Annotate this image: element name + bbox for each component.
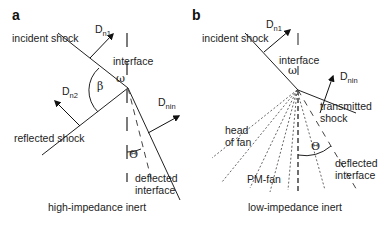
panel-b-label: b [192, 7, 201, 23]
omega-label: ω [116, 72, 125, 85]
interface-label: interface [279, 54, 319, 66]
head-of-fan-label-1: head [225, 124, 249, 136]
panel-a: a incident shock interface ω β Θ reflect… [12, 7, 180, 213]
panel-b-caption: low-impedance inert [248, 201, 342, 213]
dnin-label: Dnin [158, 96, 176, 111]
dnin-label: Dnin [340, 70, 358, 85]
dn2-arrow-icon [55, 101, 80, 126]
incident-shock-label: incident shock [202, 32, 269, 44]
panel-a-label: a [12, 7, 20, 23]
incident-shock-label: incident shock [12, 32, 79, 44]
theta-label: Θ [129, 148, 138, 161]
deflected-interface-line [128, 88, 152, 182]
deflected-interface-label-2: interface [135, 184, 175, 196]
interface-label: interface [113, 55, 153, 67]
reflected-shock-line [42, 88, 128, 155]
deflected-interface-label-2: interface [335, 169, 375, 181]
head-of-fan-label-2: of fan [225, 136, 251, 148]
shock-refraction-diagram: a incident shock interface ω β Θ reflect… [0, 0, 383, 226]
theta-label: Θ [311, 140, 320, 153]
transmitted-shock-label-2: shock [320, 112, 348, 124]
deflected-interface-label-1: deflected [135, 172, 178, 184]
reflected-shock-label: reflected shock [14, 132, 85, 144]
transmitted-shock-label-1: transmitted [320, 100, 372, 112]
dn1-label: Dn1 [95, 23, 111, 38]
dn2-label: Dn2 [62, 85, 78, 100]
panel-a-caption: high-impedance inert [48, 201, 146, 213]
panel-b: b incident shock interface ω transmit [192, 7, 378, 213]
beta-label: β [97, 80, 103, 93]
omega-label: ω [288, 64, 297, 77]
deflected-interface-label-1: deflected [335, 157, 378, 169]
dn1-label: Dn1 [266, 18, 282, 33]
dnin-arrow-icon [148, 116, 179, 133]
pm-fan-label: PM-fan [247, 173, 281, 185]
